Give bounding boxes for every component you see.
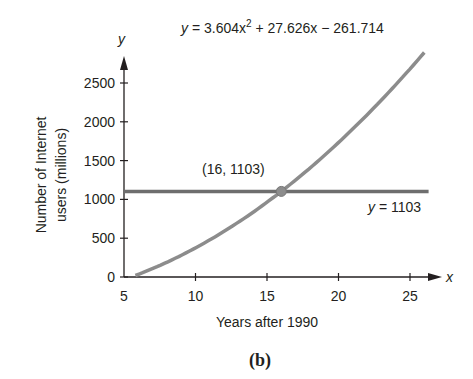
x-tick-label: 25 <box>402 288 418 304</box>
intersection-point <box>276 186 286 196</box>
y-tick-label: 1500 <box>84 153 115 169</box>
chart: 05001000150020002500 510152025 y x y = 3… <box>0 0 473 379</box>
point-label: (16, 1103) <box>202 161 265 177</box>
y-tick-label: 2000 <box>84 114 115 130</box>
svg-text:Number of Internet: Number of Internet <box>33 117 49 234</box>
y-axis-arrow-icon <box>120 56 128 70</box>
figure-caption: (b) <box>249 350 271 371</box>
curve-equation: y = 3.604x2 + 27.626x − 261.714 <box>180 18 384 36</box>
y-ticks: 05001000150020002500 <box>84 75 128 285</box>
y-tick-label: 1000 <box>84 191 115 207</box>
line-equation: y = 1103 <box>367 199 421 215</box>
x-tick-label: 20 <box>331 288 347 304</box>
quadratic-curve <box>135 53 424 276</box>
x-tick-label: 5 <box>120 288 128 304</box>
y-axis-label: Number of Internet users (millions) <box>33 117 69 234</box>
svg-text:users (millions): users (millions) <box>53 128 69 222</box>
x-tick-label: 15 <box>259 288 275 304</box>
y-axis-symbol: y <box>117 31 126 47</box>
y-tick-label: 2500 <box>84 75 115 91</box>
x-axis-arrow-icon <box>428 273 442 281</box>
y-tick-label: 0 <box>107 269 115 285</box>
y-tick-label: 500 <box>92 230 116 246</box>
x-tick-label: 10 <box>188 288 204 304</box>
x-axis-label: Years after 1990 <box>216 314 318 330</box>
x-axis-symbol: x <box>445 269 454 285</box>
